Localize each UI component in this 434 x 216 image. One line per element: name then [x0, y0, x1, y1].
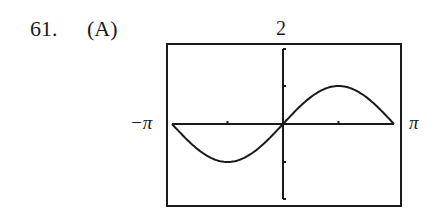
graph-window [0, 0, 434, 216]
